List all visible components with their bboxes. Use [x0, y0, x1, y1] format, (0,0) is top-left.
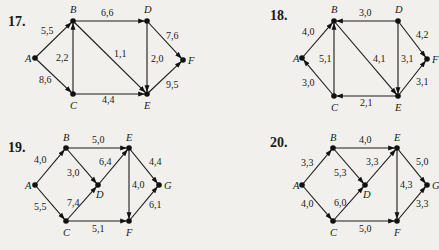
edge-label: 8,6 [39, 74, 52, 85]
node-label: G [164, 180, 172, 191]
problem-20: 20.3,34,04,05,36,03,35,04,35,03,3ABCDEFG [270, 132, 439, 238]
node-B [330, 145, 336, 151]
edge-label: 3,1 [416, 76, 429, 87]
node-label: A [24, 180, 32, 191]
problem-number: 18. [270, 8, 288, 23]
problem-18: 18.4,03,05,13,04,13,12,14,23,1ABCDEF [270, 4, 439, 113]
node-label: B [63, 132, 70, 143]
edge-label: 4,0 [359, 134, 372, 145]
edge-label: 5,5 [34, 201, 47, 212]
edge-label: 5,0 [92, 134, 105, 145]
node-C [331, 93, 337, 99]
problem-number: 17. [8, 14, 26, 29]
node-C [330, 218, 336, 224]
edge-label: 5,5 [41, 25, 54, 36]
edge-label: 5,0 [359, 223, 372, 234]
node-E [144, 91, 150, 97]
node-D [362, 182, 368, 188]
node-B [70, 18, 76, 24]
edge-label: 3,0 [67, 167, 80, 178]
node-A [32, 182, 38, 188]
node-label: F [187, 55, 195, 66]
edge-B-E [334, 21, 396, 94]
edge-label: 4,0 [132, 179, 145, 190]
node-A [32, 55, 38, 61]
node-label: F [431, 54, 439, 65]
edge-label: 4,4 [149, 156, 162, 167]
edge-label: 6,4 [99, 156, 112, 167]
edge-label: 4,4 [102, 94, 115, 105]
node-G [156, 182, 162, 188]
edge-label: 2,2 [56, 52, 69, 63]
node-label: B [330, 132, 337, 143]
node-A [299, 182, 305, 188]
node-F [180, 57, 186, 63]
node-label: C [330, 227, 338, 238]
edge-label: 3,0 [359, 7, 372, 18]
node-C [70, 91, 76, 97]
node-label: D [143, 4, 152, 15]
node-label: F [125, 227, 133, 238]
node-label: E [125, 132, 133, 143]
edge-label: 7,4 [67, 197, 80, 208]
node-label: E [394, 102, 402, 113]
edge-label: 5,0 [416, 156, 429, 167]
edge-label: 3,3 [366, 156, 379, 167]
node-label: A [24, 53, 32, 64]
node-label: E [393, 132, 401, 143]
edge-label: 1,1 [114, 48, 127, 59]
edge-label: 3,0 [302, 77, 315, 88]
node-E [126, 145, 132, 151]
node-C [63, 218, 69, 224]
edge-label: 5,1 [319, 53, 332, 64]
node-label: G [432, 180, 439, 191]
node-G [424, 182, 430, 188]
node-D [395, 18, 401, 24]
problem-19: 19.4,05,55,03,07,46,45,14,04,46,1ABCDEFG [8, 132, 172, 238]
edge-label: 6,1 [149, 199, 162, 210]
node-label: E [143, 100, 151, 111]
node-B [63, 145, 69, 151]
node-label: B [331, 4, 338, 15]
edge-label: 9,5 [166, 79, 179, 90]
edge-label: 6,0 [334, 197, 347, 208]
edge-label: 4,3 [400, 179, 413, 190]
node-label: A [292, 53, 300, 64]
node-E [395, 93, 401, 99]
node-label: D [362, 189, 371, 200]
node-label: C [331, 102, 339, 113]
edge-label: 4,0 [302, 26, 315, 37]
network-flow-diagrams: 17.5,58,62,26,61,12,04,47,69,5ABCDEF18.4… [0, 0, 439, 250]
node-label: A [292, 180, 300, 191]
edge-label: 3,1 [401, 53, 414, 64]
edge-label: 7,6 [166, 30, 179, 41]
node-label: D [95, 189, 104, 200]
edge-label: 5,1 [92, 223, 105, 234]
node-D [144, 18, 150, 24]
edge-label: 4,2 [416, 29, 429, 40]
problem-number: 20. [270, 135, 288, 150]
problem-17: 17.5,58,62,26,61,12,04,47,69,5ABCDEF [8, 4, 195, 111]
edge-label: 2,0 [151, 53, 164, 64]
node-F [424, 56, 430, 62]
node-E [394, 145, 400, 151]
edge-label: 6,6 [101, 7, 114, 18]
node-B [331, 18, 337, 24]
node-label: B [70, 4, 77, 15]
node-F [394, 218, 400, 224]
node-A [299, 55, 305, 61]
edge-label: 3,3 [416, 198, 429, 209]
edge-label: 3,3 [301, 157, 314, 168]
problem-number: 19. [8, 140, 26, 155]
node-label: D [394, 4, 403, 15]
node-F [126, 218, 132, 224]
edge-label: 2,1 [360, 97, 373, 108]
edge-B-E [73, 21, 145, 92]
node-label: C [63, 227, 71, 238]
edge-label: 4,1 [373, 53, 386, 64]
node-label: F [393, 227, 401, 238]
node-D [95, 182, 101, 188]
node-label: C [70, 100, 78, 111]
edge-label: 5,3 [334, 167, 347, 178]
edge-label: 4,0 [34, 154, 47, 165]
